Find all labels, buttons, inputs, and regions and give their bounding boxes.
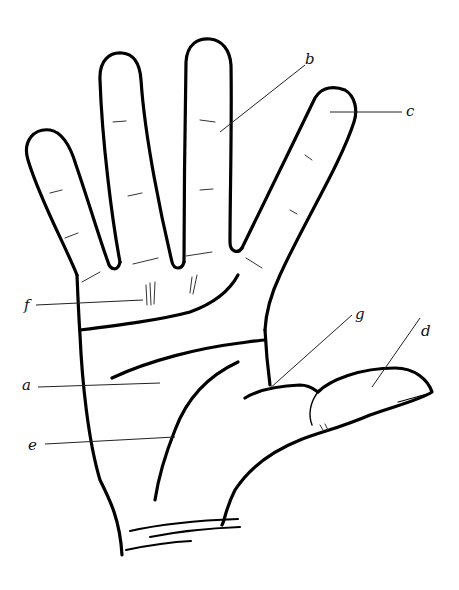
hand-outline — [27, 39, 432, 555]
palm-left-edge — [77, 275, 122, 555]
head-line — [112, 340, 265, 378]
label-e: e — [28, 438, 37, 453]
leader-e — [45, 437, 175, 444]
label-b: b — [305, 52, 315, 67]
finger-creases — [50, 120, 328, 430]
leader-lines — [36, 65, 420, 444]
middle-finger-outline — [184, 39, 242, 262]
hand-diagram — [0, 0, 459, 590]
leader-d — [372, 318, 420, 387]
heart-line — [80, 275, 238, 330]
label-f: f — [24, 298, 30, 313]
leader-f — [36, 300, 143, 305]
ring-finger-outline — [100, 53, 184, 268]
label-a: a — [22, 378, 31, 393]
wrist-crease-2 — [150, 527, 240, 537]
thumb-base-curve — [310, 392, 318, 425]
index-finger-outline — [242, 88, 356, 330]
life-line — [155, 362, 238, 500]
palm-right-edge — [265, 330, 270, 385]
label-c: c — [406, 104, 414, 119]
leader-a — [38, 383, 160, 387]
label-g: g — [355, 307, 365, 322]
thumb-outline — [222, 368, 432, 525]
label-d: d — [421, 324, 431, 339]
wrist-crease-3 — [126, 541, 191, 550]
